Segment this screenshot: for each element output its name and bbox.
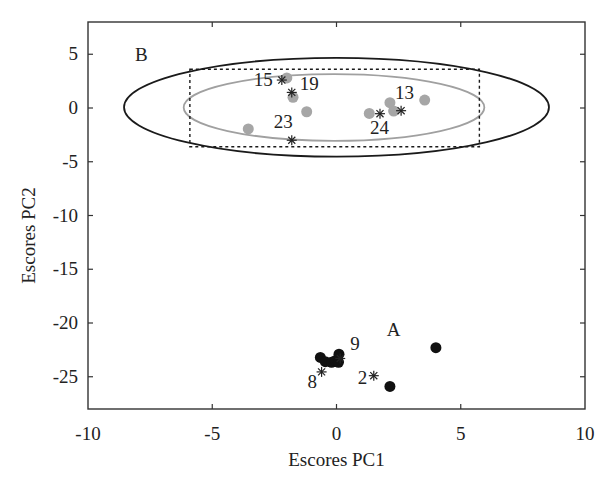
y-tick-label: 5	[69, 43, 79, 64]
asterisk-marker	[287, 135, 297, 145]
point-label: 2	[358, 367, 368, 388]
asterisk-marker	[277, 75, 287, 85]
asterisk-marker	[369, 371, 379, 381]
y-tick-label: 0	[69, 97, 79, 118]
point-label: 8	[308, 371, 318, 392]
y-tick-label: -5	[62, 151, 78, 172]
group-label-a: A	[387, 319, 401, 340]
chart-canvas: 1519232413982 BA -10-50510 50-5-10-15-20…	[0, 0, 614, 487]
asterisk-marker	[396, 106, 406, 116]
data-point	[430, 342, 441, 353]
x-tick-label: -10	[75, 423, 100, 444]
point-label: 9	[350, 333, 360, 354]
point-label: 15	[254, 69, 273, 90]
point-label: 23	[274, 111, 293, 132]
y-tick-label: -15	[53, 258, 78, 279]
chart-shapes	[124, 58, 549, 157]
asterisk-marker	[335, 353, 345, 363]
scatter-chart: 1519232413982 BA -10-50510 50-5-10-15-20…	[0, 0, 614, 487]
point-label: 13	[395, 82, 414, 103]
x-tick-label: 10	[576, 423, 595, 444]
group-label-b: B	[135, 44, 148, 65]
x-axis-label: Escores PC1	[288, 449, 385, 470]
data-point	[301, 106, 312, 117]
point-label: 24	[370, 117, 390, 138]
asterisk-marker	[317, 367, 327, 377]
y-tick-label: -25	[53, 366, 78, 387]
y-axis-ticks: 50-5-10-15-20-25	[53, 43, 585, 387]
x-tick-label: -5	[204, 423, 220, 444]
data-point	[243, 123, 254, 134]
data-point	[419, 95, 430, 106]
data-point	[384, 381, 395, 392]
x-tick-label: 0	[332, 423, 342, 444]
asterisk-marker	[287, 87, 297, 97]
x-tick-label: 5	[456, 423, 466, 444]
x-axis-ticks: -10-50510	[75, 22, 594, 444]
point-label: 19	[300, 73, 319, 94]
y-tick-label: -20	[53, 312, 78, 333]
y-axis-label: Escores PC2	[18, 187, 39, 284]
y-tick-label: -10	[53, 205, 78, 226]
chart-points	[243, 72, 442, 392]
point-labels: 1519232413982	[254, 69, 414, 392]
inner-confidence-ellipse	[184, 74, 485, 141]
dashed-bounding-box	[190, 69, 480, 146]
